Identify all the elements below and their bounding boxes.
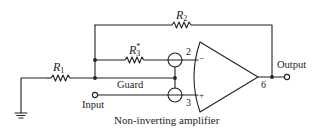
pin-2-label: 2 bbox=[186, 47, 191, 57]
label-output: Output bbox=[277, 60, 306, 71]
schematic bbox=[0, 0, 324, 132]
r1-subscript: 1 bbox=[60, 66, 64, 75]
plus-sign: + bbox=[199, 91, 204, 100]
label-r2: R2 bbox=[176, 9, 187, 23]
junction-dots bbox=[93, 58, 274, 80]
label-r1: R1 bbox=[53, 61, 64, 75]
pin-6-label: 6 bbox=[261, 80, 266, 90]
label-guard: Guard bbox=[117, 80, 143, 91]
caption: Non-inverting amplifier bbox=[114, 115, 219, 126]
label-input: Input bbox=[82, 100, 104, 111]
r2-subscript: 2 bbox=[183, 14, 187, 23]
resistor-r1 bbox=[48, 75, 95, 81]
input-terminal[interactable] bbox=[92, 92, 97, 97]
output-terminal[interactable] bbox=[284, 74, 289, 79]
pin-3-label: 3 bbox=[186, 98, 191, 108]
resistor-r2 bbox=[95, 22, 272, 77]
ground-icon bbox=[15, 78, 48, 118]
circuit-diagram: R1 R2 R3* Guard Input Output 2 3 6 − + N… bbox=[0, 0, 324, 132]
r3-asterisk: * bbox=[136, 42, 140, 51]
minus-sign: − bbox=[199, 54, 204, 63]
label-r3: R3* bbox=[129, 43, 140, 58]
